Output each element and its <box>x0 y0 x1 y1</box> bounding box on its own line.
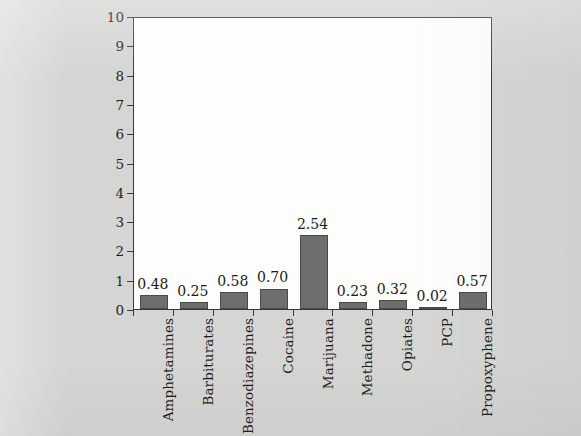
y-axis-tick-label: 4 <box>88 185 124 201</box>
x-axis-tick-mark <box>372 310 373 316</box>
x-axis-tick-mark <box>173 310 174 316</box>
y-axis-tick-label: 0 <box>88 302 124 318</box>
x-axis-category-label: Benzodiazepines <box>240 318 256 436</box>
x-axis-category-label: Barbiturates <box>200 318 216 436</box>
y-axis-tick-label: 1 <box>88 273 124 289</box>
y-axis-tick-label: 6 <box>88 126 124 142</box>
x-axis-category-label: Amphetamines <box>160 318 176 436</box>
y-axis-tick-label: 8 <box>88 68 124 84</box>
y-axis-tick-label: 9 <box>88 38 124 54</box>
bar <box>459 292 487 309</box>
x-axis-tick-mark <box>412 310 413 316</box>
bar <box>419 307 447 309</box>
x-axis-category-label: Cocaine <box>280 318 296 436</box>
bar-value-label: 2.54 <box>283 216 343 232</box>
bar-chart-figure: % of applicants 012345678910 0.48Ampheta… <box>0 0 581 436</box>
x-axis-category-label: PCP <box>439 318 455 436</box>
x-axis-tick-mark <box>253 310 254 316</box>
x-axis-tick-mark <box>293 310 294 316</box>
bar <box>180 302 208 309</box>
bar <box>260 289 288 310</box>
y-axis-tick-label: 7 <box>88 97 124 113</box>
x-axis-category-label: Methadone <box>359 318 375 436</box>
y-axis-tick-label: 3 <box>88 214 124 230</box>
x-axis-category-label: Marijuana <box>320 318 336 436</box>
bar-value-label: 0.57 <box>442 273 502 289</box>
x-axis-tick-mark <box>213 310 214 316</box>
plot-area <box>133 17 492 310</box>
y-axis-tick-label: 2 <box>88 243 124 259</box>
bar-value-label: 0.70 <box>243 269 303 285</box>
x-axis-tick-mark <box>133 310 134 316</box>
x-axis-category-label: Opiates <box>399 318 415 436</box>
bars-layer <box>134 18 491 309</box>
x-axis-tick-mark <box>452 310 453 316</box>
x-axis-tick-mark <box>492 310 493 316</box>
bar <box>339 302 367 309</box>
bar-value-label: 0.02 <box>402 288 462 304</box>
x-axis-tick-mark <box>332 310 333 316</box>
x-axis-category-label: Propoxyphene <box>479 318 495 436</box>
y-axis-tick-label: 5 <box>88 156 124 172</box>
bar <box>220 292 248 309</box>
y-axis-tick-label: 10 <box>88 9 124 25</box>
